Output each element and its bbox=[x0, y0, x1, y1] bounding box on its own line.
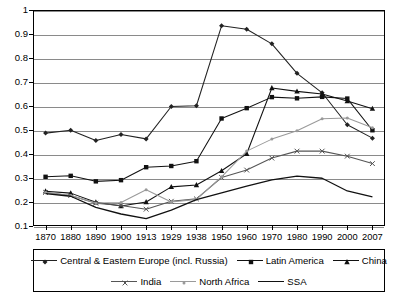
legend-marker-cross bbox=[111, 277, 137, 287]
series-line bbox=[46, 97, 373, 181]
data-point-dot bbox=[346, 117, 349, 120]
x-axis-tick-mark bbox=[272, 226, 273, 230]
data-point-square bbox=[119, 178, 123, 182]
data-point-dot bbox=[120, 201, 123, 204]
legend-item-ssa[interactable]: SSA bbox=[258, 277, 306, 287]
data-point-diamond bbox=[43, 260, 48, 265]
data-point-square bbox=[43, 175, 47, 179]
series-central-eastern-europe-incl-russia bbox=[43, 23, 375, 143]
data-point-square bbox=[245, 106, 249, 110]
x-axis-tick-mark bbox=[372, 226, 373, 230]
y-axis-tick-label: 0.3 bbox=[0, 173, 28, 183]
legend-item-latin-america[interactable]: Latin America bbox=[237, 256, 324, 266]
x-axis-tick-mark bbox=[121, 226, 122, 230]
chart-root: 0.10.20.30.40.50.60.70.80.91 18701880189… bbox=[0, 0, 416, 299]
x-axis-tick-mark bbox=[347, 226, 348, 230]
data-point-dot bbox=[94, 201, 97, 204]
data-point-dot bbox=[220, 175, 223, 178]
y-axis-tick-label: 0.4 bbox=[0, 149, 28, 159]
series-china bbox=[43, 85, 375, 208]
data-point-cross bbox=[123, 281, 128, 286]
y-axis-tick-label: 0.2 bbox=[0, 197, 28, 207]
data-point-dot bbox=[371, 126, 374, 129]
data-point-diamond bbox=[194, 103, 199, 108]
chart-legend: Central & Eastern Europe (incl. Russia)L… bbox=[33, 249, 385, 292]
y-axis-tick-label: 0.7 bbox=[0, 77, 28, 87]
data-point-square bbox=[194, 159, 198, 163]
x-axis-tick-mark bbox=[146, 226, 147, 230]
data-series-layer bbox=[33, 10, 385, 226]
data-point-diamond bbox=[93, 138, 98, 143]
legend-marker-diamond bbox=[31, 256, 57, 266]
data-point-dot bbox=[145, 188, 148, 191]
x-axis-tick-mark bbox=[222, 226, 223, 230]
x-axis-tick-mark bbox=[297, 226, 298, 230]
data-point-square bbox=[248, 260, 252, 264]
legend-marker-triangle bbox=[333, 256, 359, 266]
data-point-diamond bbox=[119, 132, 124, 137]
legend-item-label: Central & Eastern Europe (incl. Russia) bbox=[60, 256, 227, 266]
data-point-diamond bbox=[219, 23, 224, 28]
data-point-dot bbox=[296, 129, 299, 132]
legend-item-india[interactable]: India bbox=[111, 277, 161, 287]
x-axis-tick-mark bbox=[196, 226, 197, 230]
y-axis-tick-label: 0.6 bbox=[0, 101, 28, 111]
legend-row-secondary: IndiaNorth AfricaSSA bbox=[34, 271, 384, 292]
data-point-square bbox=[219, 116, 223, 120]
y-axis-tick-label: 0.8 bbox=[0, 53, 28, 63]
legend-marker-glyph bbox=[342, 257, 352, 267]
legend-marker-glyph bbox=[246, 257, 256, 267]
y-axis-tick-label: 1 bbox=[0, 5, 28, 15]
data-point-square bbox=[94, 179, 98, 183]
x-axis-tick-mark bbox=[96, 226, 97, 230]
data-point-dot bbox=[321, 117, 324, 120]
x-axis-tick-mark bbox=[46, 226, 47, 230]
data-point-square bbox=[169, 164, 173, 168]
data-point-triangle bbox=[143, 199, 148, 204]
y-axis-tick-label: 0.9 bbox=[0, 29, 28, 39]
data-point-square bbox=[295, 96, 299, 100]
legend-item-label: North Africa bbox=[199, 277, 249, 287]
series-line bbox=[46, 26, 373, 141]
data-point-triangle bbox=[269, 85, 274, 90]
x-axis-tick-mark bbox=[171, 226, 172, 230]
series-line bbox=[46, 118, 373, 203]
legend-item-label: China bbox=[362, 256, 387, 266]
data-point-dot bbox=[170, 201, 173, 204]
legend-marker-glyph bbox=[120, 278, 130, 288]
legend-row-primary: Central & Eastern Europe (incl. Russia)L… bbox=[34, 250, 384, 271]
legend-item-label: SSA bbox=[287, 277, 306, 287]
legend-marker-line bbox=[258, 277, 284, 287]
data-point-triangle bbox=[344, 259, 349, 264]
x-axis-tick-label: 2007 bbox=[357, 232, 387, 242]
legend-item-label: India bbox=[140, 277, 161, 287]
data-point-diamond bbox=[43, 131, 48, 136]
data-point-square bbox=[270, 95, 274, 99]
legend-marker-glyph bbox=[40, 257, 50, 267]
legend-marker-glyph bbox=[179, 278, 189, 288]
data-point-diamond bbox=[244, 27, 249, 32]
legend-item-north-africa[interactable]: North Africa bbox=[170, 277, 249, 287]
legend-marker-dot bbox=[170, 277, 196, 287]
y-axis-tick-label: 0.5 bbox=[0, 125, 28, 135]
data-point-dot bbox=[245, 150, 248, 153]
series-north-africa bbox=[44, 117, 374, 205]
data-point-triangle bbox=[219, 168, 224, 173]
data-point-dot bbox=[183, 282, 186, 285]
legend-item-label: Latin America bbox=[266, 256, 324, 266]
data-point-diamond bbox=[370, 136, 375, 141]
gridline bbox=[34, 227, 384, 228]
legend-item-central-eastern-europe-incl-russia[interactable]: Central & Eastern Europe (incl. Russia) bbox=[31, 256, 227, 266]
x-axis-tick-mark bbox=[71, 226, 72, 230]
x-axis-tick-mark bbox=[247, 226, 248, 230]
data-point-square bbox=[144, 165, 148, 169]
y-axis-tick-mark bbox=[29, 226, 33, 227]
data-point-square bbox=[69, 174, 73, 178]
legend-marker-square bbox=[237, 256, 263, 266]
data-point-diamond bbox=[68, 128, 73, 133]
legend-item-china[interactable]: China bbox=[333, 256, 387, 266]
data-point-dot bbox=[270, 138, 273, 141]
y-axis-tick-label: 0.1 bbox=[0, 221, 28, 231]
legend-marker-glyph bbox=[267, 278, 277, 288]
x-axis-tick-mark bbox=[322, 226, 323, 230]
